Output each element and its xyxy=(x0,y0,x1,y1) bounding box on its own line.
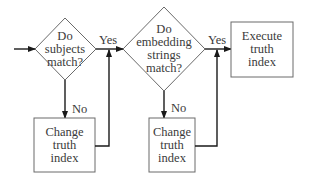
yes-label-2: Yes xyxy=(208,34,226,47)
no-label-2: No xyxy=(171,102,186,115)
change-2-label: Change truth index xyxy=(144,126,200,165)
execute-label: Execute truth index xyxy=(231,30,293,69)
label-line: match? xyxy=(40,56,90,69)
return-arrow-1 xyxy=(95,50,109,146)
decision-2-label: Do embedding strings match? xyxy=(129,23,199,75)
yes-label-1: Yes xyxy=(99,34,117,47)
change-1-label: Change truth index xyxy=(34,126,95,165)
label-line: index xyxy=(231,56,293,69)
label-line: index xyxy=(144,152,200,165)
label-line: index xyxy=(34,152,95,165)
decision-1-label: Do subjects match? xyxy=(40,30,90,69)
no-label-1: No xyxy=(72,103,87,116)
label-line: match? xyxy=(129,62,199,75)
